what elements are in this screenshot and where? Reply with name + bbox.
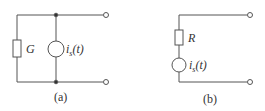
conductance-label: G xyxy=(26,42,35,57)
caption-a: (a) xyxy=(54,90,67,105)
caption-b: (b) xyxy=(203,92,217,107)
terminal-icon xyxy=(248,13,253,18)
source-label-a: is(t) xyxy=(66,42,84,58)
conductance-icon xyxy=(13,40,21,57)
circuit-b xyxy=(172,13,253,85)
source-label-b: is(t) xyxy=(189,58,207,74)
circuit-diagrams: G is(t) (a) R is(t) (b) xyxy=(0,0,265,111)
resistor-icon xyxy=(175,30,183,45)
current-source-icon xyxy=(172,58,186,72)
terminal-icon xyxy=(248,80,253,85)
terminal-icon xyxy=(104,13,109,18)
resistor-label: R xyxy=(188,31,195,46)
circuit-svg xyxy=(0,0,265,111)
current-source-icon xyxy=(48,41,64,57)
terminal-icon xyxy=(104,80,109,85)
